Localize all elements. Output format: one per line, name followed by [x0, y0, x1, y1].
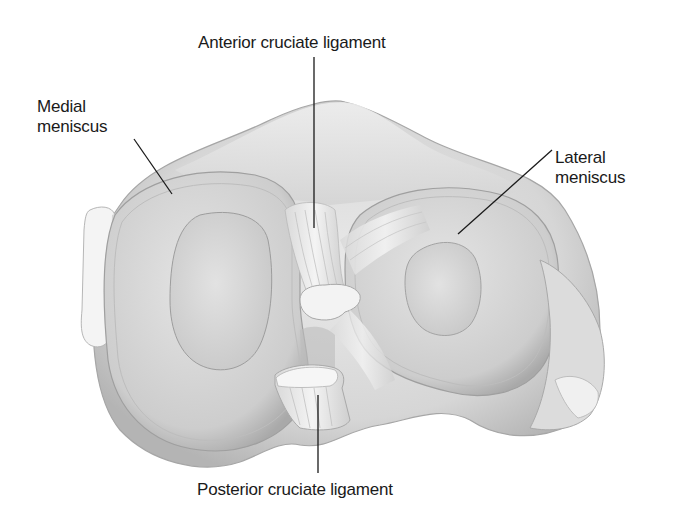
medial-articular-surface	[170, 212, 272, 369]
label-lateral-line2: meniscus	[555, 168, 625, 188]
lateral-articular-surface	[405, 242, 481, 335]
label-lateral-meniscus: Lateral meniscus	[555, 148, 625, 188]
label-lateral-line1: Lateral	[555, 148, 625, 168]
tibial-plateau-illustration	[0, 0, 675, 515]
label-medial-meniscus: Medial meniscus	[37, 97, 107, 137]
label-medial-line2: meniscus	[37, 117, 107, 137]
label-anterior-cruciate-ligament: Anterior cruciate ligament	[198, 33, 386, 53]
label-medial-line1: Medial	[37, 97, 107, 117]
knee-anatomy-figure: Anterior cruciate ligament Medial menisc…	[0, 0, 675, 515]
label-posterior-cruciate-ligament: Posterior cruciate ligament	[197, 480, 393, 500]
